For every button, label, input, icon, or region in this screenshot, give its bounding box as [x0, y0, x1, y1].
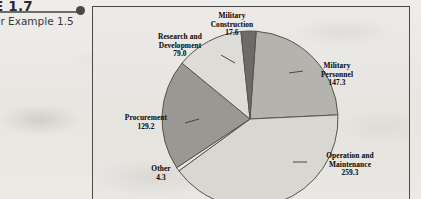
pie-label-research-development: Research and Development 79.0	[141, 33, 219, 59]
pie-label-procurement: Procurement 129.2	[109, 114, 183, 131]
figure-rule-divider	[0, 11, 79, 13]
figure-bullet-dot-icon	[76, 6, 85, 15]
figure-caption-text: or Example 1.5	[0, 15, 74, 27]
figure-caption-block: E 1.7 or Example 1.5	[0, 0, 92, 40]
pie-label-operation-maintenance: Operation and Maintenance 259.3	[307, 152, 393, 178]
chart-panel: Military Construction 17.6 Research and …	[92, 6, 410, 199]
pie-label-military-personnel: Military Personnel 147.3	[301, 62, 373, 88]
pie-label-other: Other 4.3	[137, 165, 185, 182]
